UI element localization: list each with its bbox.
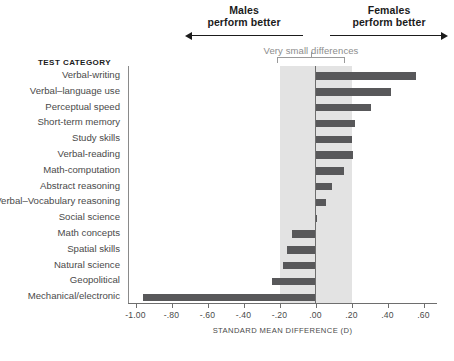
- x-axis-tick-label: .00: [296, 310, 336, 320]
- x-axis-tick: [352, 303, 353, 308]
- bar-row: Natural science: [0, 258, 454, 274]
- bar: [316, 72, 417, 79]
- x-axis-tick: [244, 303, 245, 308]
- bar: [287, 246, 316, 253]
- x-axis-tick: [208, 303, 209, 308]
- x-axis-tick-label: -1.00: [116, 310, 156, 320]
- bar-row-label: Verbal-reading: [0, 148, 120, 159]
- bar-row: Social science: [0, 210, 454, 226]
- bar: [316, 151, 354, 158]
- bar: [283, 262, 315, 269]
- x-axis-tick-label: -.60: [188, 310, 228, 320]
- bar-row: Spatial skills: [0, 242, 454, 258]
- bar-row-label: Study skills: [0, 132, 120, 143]
- x-axis-tick: [172, 303, 173, 308]
- x-axis-tick: [388, 303, 389, 308]
- x-axis-tick: [316, 303, 317, 308]
- bar-row-label: Math-computation: [0, 164, 120, 175]
- bar-row-label: Geopolitical: [0, 274, 120, 285]
- bar-row-label: Perceptual speed: [0, 101, 120, 112]
- bar: [316, 167, 345, 174]
- bar-row-label: Verbal–language use: [0, 85, 120, 96]
- bar-row-label: Short-term memory: [0, 116, 120, 127]
- x-axis-tick: [424, 303, 425, 308]
- bar-row-label: Verbal-writing: [0, 69, 120, 80]
- bar: [292, 230, 315, 237]
- bar-row: Verbal-reading: [0, 147, 454, 163]
- x-axis-tick: [280, 303, 281, 308]
- bar-row: Verbal-writing: [0, 68, 454, 84]
- bar-chart: Verbal-writingVerbal–language usePercept…: [0, 0, 454, 361]
- bar-row: Abstract reasoning: [0, 179, 454, 195]
- bar: [316, 183, 332, 190]
- bar: [316, 104, 372, 111]
- x-axis-tick-label: -.40: [224, 310, 264, 320]
- bar-row-label: Social science: [0, 211, 120, 222]
- x-axis-tick-label: .20: [332, 310, 372, 320]
- x-axis-tick-label: -.80: [152, 310, 192, 320]
- bar-row: Perceptual speed: [0, 100, 454, 116]
- bar-row-label: Math concepts: [0, 227, 120, 238]
- bar: [143, 294, 316, 301]
- bar: [316, 199, 327, 206]
- x-axis-tick-label: .40: [368, 310, 408, 320]
- x-axis-title: STANDARD MEAN DIFFERENCE (D): [128, 326, 437, 335]
- bar: [316, 88, 392, 95]
- bar: [272, 278, 315, 285]
- x-axis-tick-label: .60: [404, 310, 444, 320]
- bar-row-label: Abstract reasoning: [0, 180, 120, 191]
- bar-row: Mechanical/electronic: [0, 289, 454, 305]
- bar-row: Verbal–language use: [0, 84, 454, 100]
- bar-row-label: Natural science: [0, 259, 120, 270]
- bar: [316, 120, 356, 127]
- bar-row: Geopolitical: [0, 273, 454, 289]
- x-axis-tick: [136, 303, 137, 308]
- bar: [316, 136, 352, 143]
- bar-row: Study skills: [0, 131, 454, 147]
- bar-row: Math-computation: [0, 163, 454, 179]
- bar: [316, 215, 318, 222]
- bar-row: Short-term memory: [0, 115, 454, 131]
- x-axis-tick-label: -.20: [260, 310, 300, 320]
- bar-row-label: Verbal–Vocabulary reasoning: [0, 195, 120, 206]
- bar-row-label: Spatial skills: [0, 243, 120, 254]
- bar-row-label: Mechanical/electronic: [0, 290, 120, 301]
- bar-row: Verbal–Vocabulary reasoning: [0, 194, 454, 210]
- bar-row: Math concepts: [0, 226, 454, 242]
